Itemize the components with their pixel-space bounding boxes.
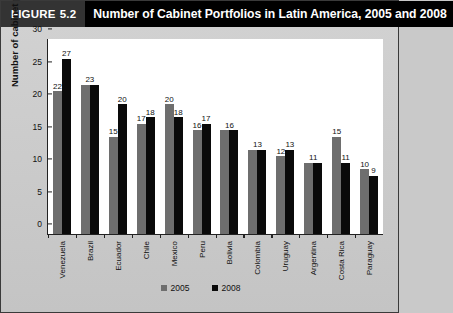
- y-axis-tick: 0: [37, 219, 48, 229]
- bar-group: 1511Costa Rica: [327, 39, 355, 234]
- bar-2008: 11: [341, 163, 350, 235]
- bar-group: 109Paraguay: [355, 39, 383, 234]
- bar-2005: 11: [304, 163, 313, 235]
- bar-2008: [313, 163, 322, 235]
- bar-value-label: 15: [109, 127, 118, 136]
- x-axis-tick: [104, 234, 105, 238]
- bar-group: 16Bolivia: [216, 39, 244, 234]
- x-axis-tick: [188, 234, 189, 238]
- bar-2005: 15: [109, 137, 118, 235]
- legend-label: 2008: [222, 283, 241, 293]
- y-axis-label: Number of cabinet portfolios: [9, 0, 20, 87]
- bar-group: 2227Venezuela: [48, 39, 76, 234]
- bar-2005: 22: [53, 91, 62, 234]
- bar-value-label: 27: [62, 49, 71, 58]
- figure-number: 5.2: [60, 8, 77, 20]
- x-axis-label: Argentina: [309, 241, 318, 275]
- y-axis-tick: 25: [33, 57, 48, 67]
- bar-value-label: 20: [118, 95, 127, 104]
- bar-group: 1718Chile: [132, 39, 160, 234]
- bar-value-label: 15: [332, 127, 341, 136]
- bar-2005: 16: [193, 130, 202, 234]
- bar-value-label: 18: [146, 108, 155, 117]
- bar-2005: 13: [248, 150, 257, 235]
- bar-value-label: 12: [276, 147, 285, 156]
- figure-header: FIGURE 5.2 Number of Cabinet Portfolios …: [1, 1, 400, 27]
- bar-value-label: 10: [360, 160, 369, 169]
- bar-2008: 18: [146, 117, 155, 234]
- x-axis-tick: [48, 234, 49, 238]
- bar-value-label: 23: [85, 75, 94, 84]
- bar-2008: 27: [62, 59, 71, 235]
- bar-value-label: 11: [309, 153, 317, 162]
- x-axis-label: Costa Rica: [337, 241, 346, 280]
- bar-2005: 17: [137, 124, 146, 235]
- figure-title: Number of Cabinet Portfolios in Latin Am…: [85, 1, 452, 27]
- bar-2008: [90, 85, 99, 234]
- bar-value-label: 13: [253, 140, 262, 149]
- bar-2008: 20: [118, 104, 127, 234]
- x-axis-tick: [327, 234, 328, 238]
- x-axis-tick: [355, 234, 356, 238]
- bar-value-label: 16: [225, 121, 234, 130]
- x-axis-label: Brazil: [85, 241, 94, 261]
- bar-group: 2018Mexico: [160, 39, 188, 234]
- y-axis-tick: 5: [37, 187, 48, 197]
- bar-2008: 17: [202, 124, 211, 235]
- x-axis-tick: [243, 234, 244, 238]
- bar-value-label: 17: [202, 114, 211, 123]
- bar-group: 23Brazil: [76, 39, 104, 234]
- plot-region: 051015202530 2227Venezuela23Brazil1520Ec…: [47, 39, 383, 235]
- bar-2008: [229, 130, 238, 234]
- chart-legend: 20052008: [1, 283, 400, 293]
- chart-area: Number of cabinet portfolios 05101520253…: [1, 27, 400, 313]
- x-axis-tick: [299, 234, 300, 238]
- y-axis-tick: 30: [33, 24, 48, 34]
- x-axis-label: Mexico: [169, 241, 178, 266]
- bar-value-label: 16: [193, 121, 202, 130]
- bar-2005: 23: [81, 85, 90, 234]
- bar-value-label: 11: [342, 153, 350, 162]
- bar-2005: 12: [276, 156, 285, 234]
- bar-2008: 9: [369, 176, 378, 235]
- legend-swatch: [212, 285, 218, 291]
- legend-swatch: [161, 285, 167, 291]
- x-axis-tick: [271, 234, 272, 238]
- bar-2008: 18: [174, 117, 183, 234]
- legend-item: 2008: [212, 283, 241, 293]
- y-axis-tick: 20: [33, 89, 48, 99]
- x-axis-tick: [216, 234, 217, 238]
- x-axis-tick: [76, 234, 77, 238]
- bar-2005: 16: [220, 130, 229, 234]
- bar-group: 13Colombia: [243, 39, 271, 234]
- bar-value-label: 22: [53, 82, 62, 91]
- bar-value-label: 18: [174, 108, 183, 117]
- bar-value-label: 20: [165, 95, 174, 104]
- bar-group: 1520Ecuador: [104, 39, 132, 234]
- bar-group: 11Argentina: [299, 39, 327, 234]
- bar-2005: 20: [165, 104, 174, 234]
- x-axis-label: Ecuador: [113, 241, 122, 271]
- x-axis-label: Uruguay: [281, 241, 290, 271]
- legend-label: 2005: [171, 283, 190, 293]
- x-axis-label: Paraguay: [365, 241, 374, 275]
- x-axis-label: Chile: [141, 241, 150, 259]
- x-axis-label: Bolivia: [225, 241, 234, 265]
- bar-value-label: 17: [137, 114, 146, 123]
- bar-2008: [257, 150, 266, 235]
- bar-2005: 15: [332, 137, 341, 235]
- bar-value-label: 13: [285, 140, 294, 149]
- x-axis-label: Peru: [197, 241, 206, 258]
- bar-2008: 13: [285, 150, 294, 235]
- x-axis-label: Venezuela: [57, 241, 66, 278]
- legend-item: 2005: [161, 283, 190, 293]
- y-axis-tick: 15: [33, 122, 48, 132]
- bar-group: 1617Peru: [188, 39, 216, 234]
- y-axis-tick: 10: [33, 154, 48, 164]
- bar-group: 1213Uruguay: [271, 39, 299, 234]
- x-axis-tick: [132, 234, 133, 238]
- bar-value-label: 9: [371, 166, 375, 175]
- bar-2005: 10: [360, 169, 369, 234]
- x-axis-tick: [160, 234, 161, 238]
